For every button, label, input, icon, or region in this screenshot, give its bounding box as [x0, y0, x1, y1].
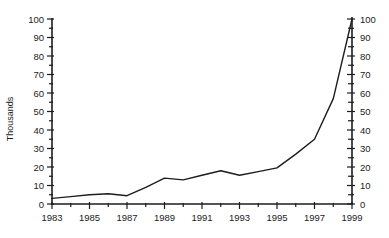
y-tick-label-right: 60 [360, 88, 371, 99]
y-axis-title: Thousands [5, 96, 15, 141]
y-tick-label-right: 80 [360, 51, 371, 62]
y-tick-label-right: 40 [360, 125, 371, 136]
y-tick-label-left: 70 [33, 69, 44, 80]
x-tick-label: 1989 [154, 212, 175, 223]
y-tick-label-right: 0 [360, 199, 365, 210]
x-tick-label: 1993 [229, 212, 250, 223]
y-tick-label-left: 10 [33, 180, 44, 191]
x-tick-label: 1999 [341, 212, 362, 223]
y-tick-label-left: 90 [33, 32, 44, 43]
y-tick-label-right: 50 [360, 106, 371, 117]
y-tick-label-right: 20 [360, 162, 371, 173]
line-chart: 0010102020303040405050606070708080909010… [0, 0, 389, 238]
y-tick-label-right: 30 [360, 143, 371, 154]
y-tick-label-right: 10 [360, 180, 371, 191]
x-tick-label: 1991 [191, 212, 212, 223]
data-series-line [52, 19, 352, 198]
y-tick-label-left: 30 [33, 143, 44, 154]
y-tick-label-right: 70 [360, 69, 371, 80]
y-tick-label-left: 60 [33, 88, 44, 99]
x-tick-label: 1985 [79, 212, 100, 223]
chart-ticks [47, 19, 355, 209]
y-tick-label-left: 20 [33, 162, 44, 173]
y-tick-label-right: 100 [360, 14, 376, 25]
y-tick-label-left: 40 [33, 125, 44, 136]
x-tick-label: 1987 [116, 212, 137, 223]
y-tick-label-left: 100 [28, 14, 44, 25]
y-tick-label-left: 50 [33, 106, 44, 117]
x-tick-label: 1997 [304, 212, 325, 223]
y-tick-label-right: 90 [360, 32, 371, 43]
chart-canvas: 0010102020303040405050606070708080909010… [0, 0, 389, 238]
x-tick-label: 1983 [41, 212, 62, 223]
y-tick-label-left: 80 [33, 51, 44, 62]
y-tick-label-left: 0 [39, 199, 44, 210]
x-tick-label: 1995 [266, 212, 287, 223]
